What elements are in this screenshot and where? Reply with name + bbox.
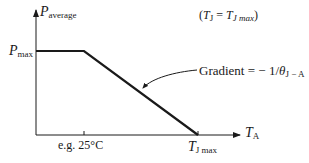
diagram-axes-and-curve — [0, 0, 309, 163]
tick-label-tjmax: TJ max — [188, 140, 217, 155]
y-axis-label: Paverage — [40, 5, 77, 20]
x-axis-label: TA — [245, 126, 259, 141]
derating-diagram: Paverage (TJ = TJ max) Pmax Gradient = −… — [0, 0, 309, 163]
gradient-leader-arrow — [143, 70, 197, 88]
pmax-label: Pmax — [9, 44, 33, 59]
derating-curve — [36, 51, 198, 135]
gradient-label: Gradient = − 1/θJ − A — [199, 64, 305, 79]
tick-label-25c: e.g. 25°C — [58, 139, 103, 151]
condition-label: (TJ = TJ max) — [199, 9, 258, 23]
